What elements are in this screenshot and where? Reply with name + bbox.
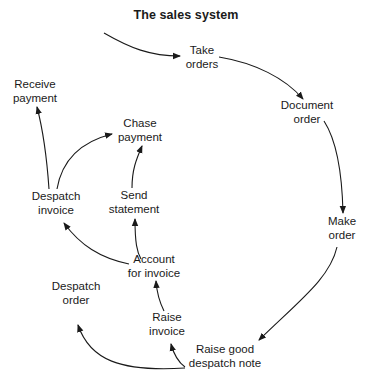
node-label-line2: orders [186, 58, 219, 72]
node-raise-invoice: Raise invoice [149, 311, 185, 338]
node-label-line1: Despatch [52, 280, 101, 294]
node-label-line1: Raise [149, 311, 185, 325]
node-label-line1: Account [128, 253, 180, 267]
node-label-line1: Raise good [189, 343, 261, 357]
node-take-orders: Take orders [186, 44, 219, 71]
node-send-statement: Send statement [109, 189, 160, 216]
arrow-start-to-take-orders [104, 33, 180, 56]
arrow-take-orders-to-document-order [219, 57, 303, 99]
node-label-line2: for invoice [128, 267, 180, 281]
node-label-line1: Make [328, 215, 356, 229]
node-label-line1: Send [109, 189, 160, 203]
node-label-line2: invoice [32, 204, 81, 218]
node-label-line1: Despatch [32, 190, 81, 204]
node-label-line1: Take [186, 44, 219, 58]
arrow-send-statement-to-chase [132, 146, 142, 188]
node-receive-payment: Receive payment [13, 78, 57, 105]
node-label-line2: invoice [149, 325, 185, 339]
node-label-line2: order [328, 229, 356, 243]
node-label-line1: Chase [118, 117, 162, 131]
node-label-line2: payment [118, 131, 162, 145]
node-account-for-invoice: Account for invoice [128, 253, 180, 280]
node-label-line2: order [281, 113, 333, 127]
node-make-order: Make order [328, 215, 356, 242]
node-chase-payment: Chase payment [118, 117, 162, 144]
arrow-raise-invoice-to-account [156, 281, 164, 311]
arrow-despatch-invoice-to-receive [37, 107, 49, 189]
node-despatch-invoice: Despatch invoice [32, 190, 81, 217]
arrow-make-order-to-raise-note [259, 247, 337, 340]
arrow-document-order-to-make-order [324, 121, 343, 213]
node-label-line1: Document [281, 99, 333, 113]
node-raise-good-despatch-note: Raise good despatch note [189, 343, 261, 370]
arrow-account-to-despatch-invoice [64, 223, 129, 264]
node-despatch-order: Despatch order [52, 280, 101, 307]
node-label-line1: Receive [13, 78, 57, 92]
arrow-raise-note-to-raise-invoice [171, 344, 185, 367]
node-label-line2: statement [109, 203, 160, 217]
node-document-order: Document order [281, 99, 333, 126]
node-label-line2: despatch note [189, 357, 261, 371]
node-label-line2: payment [13, 92, 57, 106]
arrow-despatch-invoice-to-chase [57, 134, 112, 189]
node-label-line2: order [52, 294, 101, 308]
